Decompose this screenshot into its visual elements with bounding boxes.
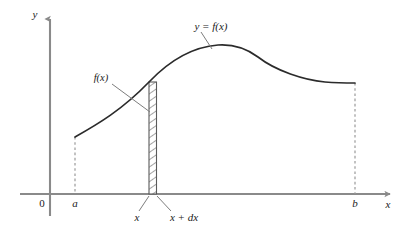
- origin-label: 0: [39, 197, 45, 209]
- function-curve: [75, 45, 355, 137]
- figure-canvas: y x 0 a b x x + dx y = f(x) f(x): [0, 0, 411, 233]
- dashed-bounds-group: [75, 83, 355, 194]
- axes-group: [20, 19, 390, 216]
- leader-height-label: [112, 84, 150, 112]
- x-axis-label: x: [385, 198, 391, 210]
- leader-strip-right: [157, 196, 171, 211]
- leader-strip-left: [139, 196, 149, 211]
- y-axis-label: y: [32, 8, 38, 20]
- strip-hatch-fill: [149, 82, 157, 194]
- tick-label-a: a: [72, 197, 78, 209]
- area-under-curve-diagram: y x 0 a b x x + dx y = f(x) f(x): [0, 0, 411, 233]
- strip-right-label: x + dx: [169, 211, 198, 223]
- leader-lines-group: [112, 32, 212, 211]
- differential-strip: [149, 82, 157, 194]
- curve-equation-label: y = f(x): [193, 20, 227, 33]
- tick-label-b: b: [352, 197, 358, 209]
- strip-height-label: f(x): [94, 72, 109, 84]
- strip-left-label: x: [134, 211, 140, 223]
